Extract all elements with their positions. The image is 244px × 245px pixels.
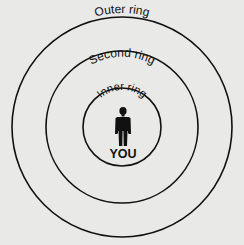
you-label: YOU	[109, 147, 136, 161]
inner-ring-label: Inner ring	[94, 80, 149, 100]
second-ring-label: Second ring	[86, 46, 157, 68]
person-icon	[115, 107, 131, 146]
concentric-rings-diagram: Outer ring Second ring Inner ring YOU	[0, 0, 244, 245]
